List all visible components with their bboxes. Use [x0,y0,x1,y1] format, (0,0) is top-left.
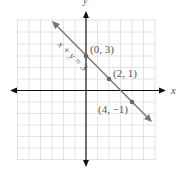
point-label-4-neg1: (4, −1) [98,103,128,116]
point-0-3 [84,54,89,59]
y-axis [83,11,89,167]
point-4-neg1 [130,100,135,105]
y-axis-down-arrow-icon [83,160,89,167]
x-axis [10,88,166,94]
point-label-2-1: (2, 1) [113,67,137,80]
x-axis-left-arrow-icon [10,88,17,94]
coordinate-graph: x y x + y = 3 (0, 3) (2, 1) (4, −1) [0,0,178,169]
y-axis-label: y [82,0,88,6]
y-axis-up-arrow-icon [83,11,89,18]
x-axis-label: x [170,84,176,96]
point-label-0-3: (0, 3) [90,43,114,56]
x-axis-right-arrow-icon [159,88,166,94]
point-2-1 [107,77,112,82]
